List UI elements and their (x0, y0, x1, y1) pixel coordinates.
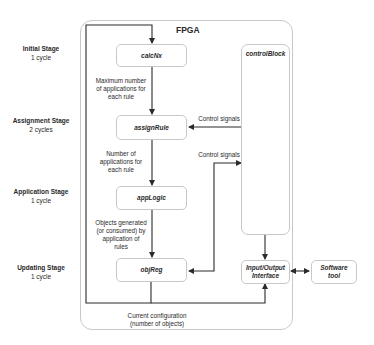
edge-label-line: Number of (92, 150, 150, 158)
edge-label-line: rules (90, 243, 152, 251)
block-label-line1: Software (320, 264, 347, 272)
edge-label-objects-generated: Objects generated (or consumed) by appli… (90, 219, 152, 251)
edge-label-line: Objects generated (90, 219, 152, 227)
edge-label-line: Maximum number (92, 77, 150, 85)
edge-label-control-signals-1: Control signals (194, 115, 244, 123)
edge-label-line: each rule (92, 93, 150, 101)
connection-lines (0, 0, 374, 345)
block-calcnx: calcNx (116, 44, 187, 67)
edge-label-line: application of (90, 235, 152, 243)
block-software-tool: Software tool (311, 260, 357, 284)
block-label: appLogic (137, 194, 166, 202)
edge-label-line: each rule (92, 166, 150, 174)
edge-label-line: (number of objects) (112, 320, 202, 328)
block-label: calcNx (141, 52, 162, 60)
block-objreg: objReg (116, 258, 187, 282)
edge-label-control-signals-2: Control signals (194, 151, 244, 159)
edge-label-line: of applications for (92, 85, 150, 93)
edge-label-line: (or consumed) by (90, 227, 152, 235)
block-assignrule: assignRule (116, 115, 187, 140)
block-label: assignRule (134, 124, 169, 132)
block-label-line1: Input/Output (246, 264, 285, 272)
edge-label-line: Current configuration (112, 312, 202, 320)
block-label: controlBlock (246, 50, 286, 58)
edge-label-line: applications for (92, 158, 150, 166)
block-controlblock: controlBlock (241, 44, 290, 235)
block-label-line2: Interface (252, 272, 279, 280)
block-io-interface: Input/Output Interface (241, 260, 290, 284)
block-label: objReg (140, 266, 162, 274)
edge-label-num-applications: Number of applications for each rule (92, 150, 150, 174)
edge-label-max-applications: Maximum number of applications for each … (92, 77, 150, 101)
block-label-line2: tool (328, 272, 340, 280)
block-applogic: appLogic (116, 186, 187, 210)
edge-label-current-configuration: Current configuration (number of objects… (112, 312, 202, 328)
